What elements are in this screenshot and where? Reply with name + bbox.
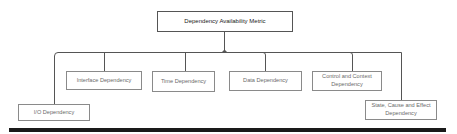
node-time-dependency: Time Dependency bbox=[152, 71, 215, 92]
junction-arrow-icon bbox=[222, 50, 227, 53]
io-connector bbox=[55, 53, 59, 111]
node-label: Interface Dependency bbox=[77, 77, 132, 85]
node-label: Control and Context Dependency bbox=[319, 73, 375, 88]
root-node: Dependency Availability Metric bbox=[157, 11, 293, 32]
node-data-dependency: Data Dependency bbox=[229, 71, 302, 91]
root-label: Dependency Availability Metric bbox=[184, 17, 265, 25]
diagram-canvas: Dependency Availability Metric Interface… bbox=[0, 0, 457, 134]
node-interface-dependency: Interface Dependency bbox=[66, 71, 142, 90]
node-label: State, Cause and Effect Dependency bbox=[368, 102, 434, 117]
node-io-dependency: I/O Dependency bbox=[18, 104, 90, 121]
data-connector bbox=[263, 53, 266, 72]
node-label: I/O Dependency bbox=[34, 109, 74, 117]
node-control-context-dependency: Control and Context Dependency bbox=[312, 71, 382, 91]
bottom-divider-bar bbox=[9, 128, 446, 132]
node-label: Data Dependency bbox=[243, 77, 288, 85]
node-label: Time Dependency bbox=[161, 78, 206, 86]
node-state-cause-effect-dependency: State, Cause and Effect Dependency bbox=[365, 100, 437, 120]
control-connector bbox=[350, 53, 353, 72]
